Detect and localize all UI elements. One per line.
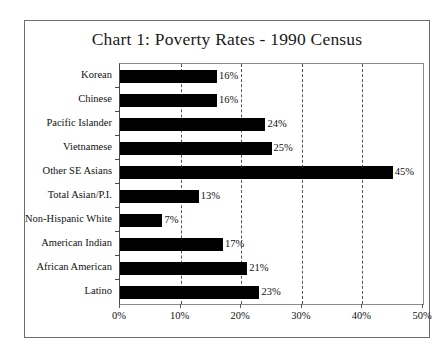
bar-row: 17%	[120, 238, 423, 251]
bar-value-label: 45%	[395, 167, 414, 178]
y-axis-tick	[115, 111, 119, 112]
bar-value-label: 16%	[219, 95, 238, 106]
chart-title: Chart 1: Poverty Rates - 1990 Census	[25, 29, 429, 50]
category-label: Non-Hispanic White	[25, 214, 112, 225]
y-axis-tick	[115, 279, 119, 280]
x-axis-tick-label: 10%	[160, 311, 200, 322]
bar-value-label: 16%	[219, 71, 238, 82]
bar[interactable]	[120, 262, 247, 275]
y-axis-tick	[115, 207, 119, 208]
x-axis-tick-label: 50%	[402, 311, 442, 322]
bar[interactable]	[120, 166, 393, 179]
bar-row: 25%	[120, 142, 423, 155]
bar-row: 13%	[120, 190, 423, 203]
bar[interactable]	[120, 94, 217, 107]
bar-row: 45%	[120, 166, 423, 179]
x-axis-tick	[422, 304, 423, 308]
bar[interactable]	[120, 286, 259, 299]
y-axis-tick	[115, 135, 119, 136]
bar[interactable]	[120, 118, 265, 131]
x-axis-tick-label: 40%	[341, 311, 381, 322]
x-axis-tick-label: 30%	[281, 311, 321, 322]
category-label: Other SE Asians	[25, 166, 112, 177]
category-label: Korean	[25, 70, 112, 81]
chart-frame: Chart 1: Poverty Rates - 1990 Census 16%…	[24, 20, 430, 338]
category-label: Latino	[25, 286, 112, 297]
bar-value-label: 13%	[201, 191, 220, 202]
bar[interactable]	[120, 70, 217, 83]
x-axis-tick-label: 20%	[220, 311, 260, 322]
y-axis-tick	[115, 255, 119, 256]
y-axis-tick	[115, 231, 119, 232]
x-axis-tick-label: 0%	[99, 311, 139, 322]
bar[interactable]	[120, 142, 272, 155]
bar[interactable]	[120, 190, 199, 203]
category-label: Pacific Islander	[25, 118, 112, 129]
bar-value-label: 21%	[249, 263, 268, 274]
y-axis-tick	[115, 87, 119, 88]
bar-row: 21%	[120, 262, 423, 275]
plot-area: 16%16%24%25%45%13%7%17%21%23%	[119, 63, 424, 305]
category-label: Vietnamese	[25, 142, 112, 153]
bar-value-label: 24%	[267, 119, 286, 130]
category-label: Total Asian/P.I.	[25, 190, 112, 201]
x-axis-tick	[361, 304, 362, 308]
bar-row: 16%	[120, 70, 423, 83]
y-axis-tick	[115, 159, 119, 160]
bar[interactable]	[120, 214, 162, 227]
bar-row: 24%	[120, 118, 423, 131]
category-label: Chinese	[25, 94, 112, 105]
category-label: American Indian	[25, 238, 112, 249]
x-axis-tick	[301, 304, 302, 308]
category-label: African American	[25, 262, 112, 273]
x-axis-tick	[180, 304, 181, 308]
bar-row: 23%	[120, 286, 423, 299]
bar-value-label: 25%	[274, 143, 293, 154]
y-axis-tick	[115, 183, 119, 184]
bar-value-label: 17%	[225, 239, 244, 250]
bar-value-label: 23%	[261, 287, 280, 298]
chart-figure: Chart 1: Poverty Rates - 1990 Census 16%…	[0, 0, 445, 355]
bar-value-label: 7%	[164, 215, 178, 226]
bar[interactable]	[120, 238, 223, 251]
x-axis-tick	[240, 304, 241, 308]
bar-row: 16%	[120, 94, 423, 107]
x-axis-tick	[119, 304, 120, 308]
bar-row: 7%	[120, 214, 423, 227]
